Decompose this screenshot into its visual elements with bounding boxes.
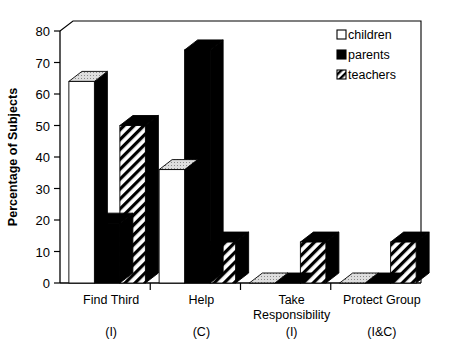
y-tick-label: 60 [36, 87, 50, 102]
y-tick-label: 40 [36, 150, 50, 165]
x-category-sublabel: (I) [105, 325, 117, 339]
x-category-sublabel: (I&C) [367, 325, 396, 339]
empty-square-marker [337, 30, 346, 39]
y-tick-label: 80 [36, 24, 50, 39]
bar-children-0 [69, 71, 108, 283]
x-category-sublabel: (I) [286, 325, 298, 339]
y-tick-label: 50 [36, 119, 50, 134]
x-category-label: Find Third [83, 293, 139, 307]
legend-label-parents: parents [348, 48, 390, 62]
chart-canvas: 01020304050607080 Find Third(I)Help(C)Ta… [0, 0, 452, 352]
legend-label-teachers: teachers [348, 68, 396, 82]
x-category-label: Protect Group [343, 293, 421, 307]
y-tick-label: 20 [36, 213, 50, 228]
y-tick-label: 70 [36, 56, 50, 71]
y-tick-label: 0 [43, 276, 50, 291]
legend-label-children: children [348, 28, 392, 42]
x-category-label: Take [278, 293, 304, 307]
y-tick-label: 10 [36, 245, 50, 260]
y-axis-title: Percentage of Subjects [6, 88, 20, 226]
x-category-label: Help [189, 293, 215, 307]
bar-chart-figure: 01020304050607080 Find Third(I)Help(C)Ta… [0, 0, 452, 352]
chart-legend: childrenparentsteachers [337, 28, 396, 82]
y-tick-label: 30 [36, 182, 50, 197]
x-category-sublabel: (C) [193, 325, 210, 339]
filled-square-marker [337, 50, 346, 59]
hatched-square-marker [337, 70, 346, 79]
x-category-label-line2: Responsibility [253, 308, 331, 322]
bar-children-1 [159, 160, 198, 283]
